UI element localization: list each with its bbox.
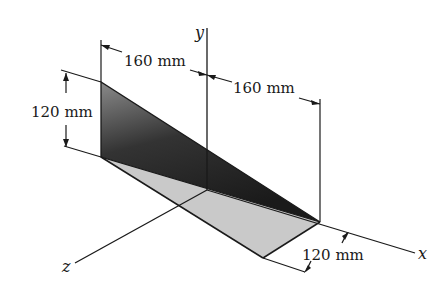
arrow-icon [198,71,207,76]
arrow-icon [311,100,320,105]
dimension-label-depth: 120 mm [302,246,364,264]
z-axis [75,190,207,263]
arrow-icon [207,75,216,80]
arrow-icon [63,73,69,81]
arrow-icon [304,265,311,273]
z-axis-label: z [61,257,71,276]
dimension-label-top-right: 160 mm [233,79,295,97]
y-axis-label: y [194,23,205,42]
dimension-label-height: 120 mm [31,103,93,121]
depth-extension-bottom [263,258,305,272]
height-extension-bottom [64,146,101,157]
arrow-icon [342,232,349,240]
diagram-canvas: 160 mm 160 mm 120 mm 120 mm y x z [0,0,447,290]
x-axis-label: x [418,244,427,263]
arrow-icon [63,139,69,147]
dimension-label-top-left: 160 mm [124,52,186,70]
arrow-icon [101,45,110,50]
